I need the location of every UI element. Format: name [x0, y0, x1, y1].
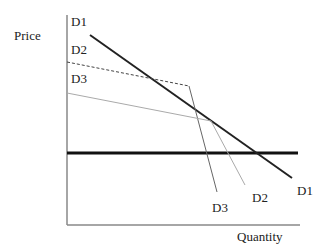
d1-label-bottom: D1 — [297, 183, 313, 198]
d1-label-top: D1 — [71, 14, 87, 29]
d3-label-top: D3 — [71, 71, 87, 86]
y-axis-label: Price — [14, 28, 41, 43]
d2-label-bottom: D2 — [252, 190, 268, 205]
d3-label-bottom: D3 — [212, 200, 228, 215]
demand-diagram: Price Quantity D1 D2 D3 D1 D2 D3 — [0, 0, 326, 252]
demand-curve-d3-lower — [189, 86, 217, 192]
x-axis-label: Quantity — [237, 229, 283, 244]
d2-label-top: D2 — [71, 42, 87, 57]
demand-curve-d1 — [90, 35, 292, 178]
demand-curve-d3-upper — [67, 93, 211, 121]
